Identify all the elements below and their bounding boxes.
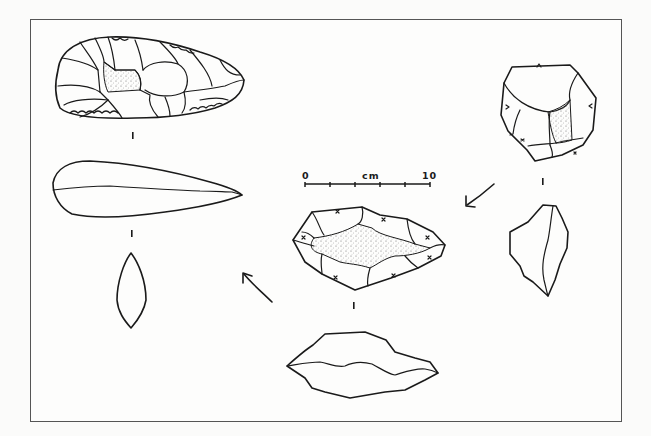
view-separator-tick — [353, 302, 355, 309]
core-profile-view — [510, 205, 568, 296]
core-face-view — [501, 64, 596, 161]
roughout-face-view — [293, 207, 445, 290]
scale-end-label: 10 — [422, 170, 437, 181]
scale-bar: 0 cm 10 — [302, 170, 437, 187]
lithic-illustration: 0 cm 10 — [0, 0, 651, 436]
handaxe-cross-section — [117, 253, 146, 328]
handaxe-face-view — [56, 37, 244, 118]
view-separator-tick — [132, 132, 134, 139]
arrow-core-to-roughout-icon — [466, 184, 494, 207]
scale-unit-label: cm — [362, 170, 380, 181]
roughout-profile-view — [287, 332, 438, 398]
handaxe-profile-view — [53, 161, 242, 217]
view-separator-tick — [542, 178, 544, 185]
arrow-roughout-to-handaxe-icon — [243, 273, 272, 302]
scale-start-label: 0 — [302, 170, 310, 181]
view-separator-tick — [131, 230, 133, 237]
